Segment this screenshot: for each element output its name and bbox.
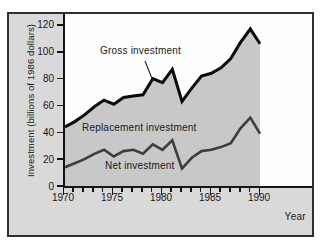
x-tick-label: 1985 (194, 192, 226, 204)
y-tick (57, 158, 63, 160)
y-tick-label: 40 (13, 126, 54, 139)
x-tick (190, 188, 192, 192)
y-tick-label: 80 (13, 72, 54, 85)
x-axis-title: Year (285, 211, 306, 222)
x-tick (82, 188, 84, 192)
y-tick (57, 105, 63, 107)
x-tick-label: 1975 (96, 192, 128, 204)
x-tick-label: 1970 (47, 192, 79, 204)
chart-figure: Gross investment Replacement investment … (7, 12, 314, 237)
y-tick (57, 185, 63, 187)
x-tick (141, 188, 143, 192)
x-tick (180, 188, 182, 192)
y-tick (57, 78, 63, 80)
x-tick-label: 1990 (243, 192, 275, 204)
y-tick-label: 60 (13, 99, 54, 112)
x-tick (131, 188, 133, 192)
y-tick-label: 0 (13, 180, 54, 193)
y-tick (57, 24, 63, 26)
y-tick-label: 100 (13, 45, 54, 58)
x-tick (239, 188, 241, 192)
x-tick (92, 188, 94, 192)
y-tick (57, 132, 63, 134)
y-tick-label: 20 (13, 153, 54, 166)
y-tick-label: 120 (13, 18, 54, 31)
y-tick (57, 51, 63, 53)
axis-tick-layer: 02040608010012019701975198019851990 (9, 14, 312, 235)
x-tick (229, 188, 231, 192)
x-tick-label: 1980 (145, 192, 177, 204)
